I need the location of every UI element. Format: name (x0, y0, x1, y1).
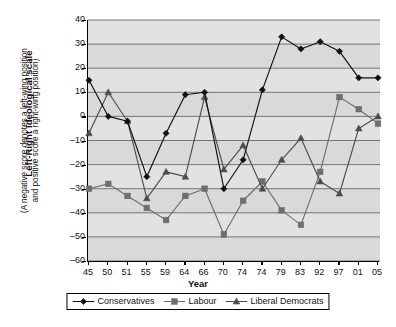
plot-area (87, 20, 380, 261)
x-tick-mark (223, 261, 224, 265)
data-point-marker (163, 130, 169, 136)
y-axis-subtitle-line1: (A negative score denotes a left-wing po… (20, 16, 31, 246)
legend-marker-square-icon (163, 296, 185, 307)
data-point-marker (86, 77, 92, 83)
x-tick-mark (127, 261, 128, 265)
data-point-marker (144, 174, 150, 180)
chart-figure: Left-Right Ideological scale (A negative… (0, 0, 396, 327)
y-axis-tick-labels: 403020100–10–20–30–40–50–60 (55, 0, 85, 270)
legend-marker-diamond-icon (72, 296, 94, 307)
y-tick-mark (82, 213, 86, 214)
x-tick-mark (281, 261, 282, 265)
legend-item-conservatives[interactable]: Conservatives (72, 296, 154, 307)
data-point-marker (298, 135, 305, 141)
data-point-marker (375, 113, 382, 119)
y-tick-mark (82, 189, 86, 190)
data-point-marker (221, 186, 227, 192)
y-tick-mark (82, 44, 86, 45)
y-tick-mark (82, 20, 86, 21)
x-tick-mark (377, 261, 378, 265)
data-point-marker (336, 190, 343, 196)
x-tick-mark (338, 261, 339, 265)
y-tick-mark (82, 116, 86, 117)
x-tick-mark (146, 261, 147, 265)
data-point-marker (105, 181, 111, 187)
data-point-marker (279, 34, 285, 40)
data-point-marker (298, 222, 304, 228)
x-tick-mark (242, 261, 243, 265)
data-point-marker (172, 299, 178, 305)
y-axis-subtitle: (A negative score denotes a left-wing po… (20, 16, 41, 246)
x-tick-mark (107, 261, 108, 265)
data-point-marker (80, 298, 86, 304)
data-point-marker (279, 208, 285, 214)
x-tick-mark (204, 261, 205, 265)
x-axis-title: Year (0, 278, 396, 289)
data-point-marker (221, 232, 227, 238)
x-tick-label: 05 (365, 267, 389, 277)
data-point-marker (375, 121, 381, 127)
data-point-marker (163, 168, 170, 174)
series-labour (86, 94, 381, 237)
x-tick-mark (319, 261, 320, 265)
data-point-marker (183, 193, 189, 199)
x-tick-mark (165, 261, 166, 265)
data-point-marker (125, 193, 131, 199)
x-tick-mark (88, 261, 89, 265)
x-tick-mark (358, 261, 359, 265)
y-tick-mark (82, 141, 86, 142)
legend-label: Labour (187, 296, 216, 307)
x-tick-mark (184, 261, 185, 265)
data-point-marker (86, 186, 92, 192)
data-point-marker (317, 169, 323, 175)
data-point-marker (355, 125, 362, 131)
series-conservatives (86, 34, 381, 192)
data-point-marker (144, 205, 150, 211)
data-point-marker (105, 113, 111, 119)
data-point-marker (202, 186, 208, 192)
data-point-marker (163, 217, 169, 223)
x-tick-mark (261, 261, 262, 265)
x-tick-mark (300, 261, 301, 265)
data-point-marker (375, 75, 381, 81)
legend-marker-triangle-icon (226, 296, 248, 307)
data-point-marker (240, 198, 246, 204)
legend-label: Conservatives (96, 296, 154, 307)
data-point-marker (240, 142, 247, 148)
data-point-marker (86, 130, 93, 136)
data-point-marker (356, 106, 362, 112)
data-point-marker (337, 94, 343, 100)
data-point-marker (202, 89, 208, 95)
series-line (89, 92, 378, 198)
y-tick-mark (82, 165, 86, 166)
series-line (89, 97, 378, 234)
y-tick-mark (82, 68, 86, 69)
chart-legend: ConservativesLabourLiberal Democrats (66, 293, 329, 310)
y-axis-subtitle-line2: and positive score a right-wing position… (30, 16, 41, 246)
plot-graphics (88, 20, 380, 261)
legend-label: Liberal Democrats (250, 296, 324, 307)
y-axis-title-group: Left-Right Ideological scale (A negative… (0, 0, 56, 270)
legend-item-labour[interactable]: Labour (163, 296, 216, 307)
data-point-marker (298, 46, 304, 52)
series-line (89, 37, 378, 189)
legend-item-liberal-democrats[interactable]: Liberal Democrats (226, 296, 324, 307)
data-point-marker (240, 157, 246, 163)
y-tick-mark (82, 92, 86, 93)
y-tick-mark (82, 237, 86, 238)
